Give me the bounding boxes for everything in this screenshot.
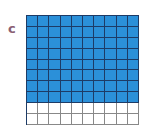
filled-cell	[94, 81, 105, 92]
empty-cell	[49, 114, 60, 125]
filled-cell	[83, 81, 94, 92]
filled-cell	[38, 92, 49, 103]
filled-cell	[128, 16, 139, 27]
filled-cell	[83, 16, 94, 27]
empty-cell	[61, 114, 72, 125]
filled-cell	[27, 16, 38, 27]
filled-cell	[61, 70, 72, 81]
filled-cell	[72, 49, 83, 60]
filled-cell	[38, 81, 49, 92]
filled-cell	[83, 92, 94, 103]
empty-cell	[27, 114, 38, 125]
empty-cell	[38, 103, 49, 114]
filled-cell	[27, 49, 38, 60]
filled-cell	[49, 81, 60, 92]
filled-cell	[72, 16, 83, 27]
filled-cell	[128, 27, 139, 38]
filled-cell	[83, 27, 94, 38]
filled-cell	[61, 60, 72, 71]
filled-cell	[49, 49, 60, 60]
filled-cell	[128, 92, 139, 103]
filled-cell	[83, 38, 94, 49]
filled-cell	[49, 92, 60, 103]
filled-cell	[117, 70, 128, 81]
filled-cell	[38, 60, 49, 71]
filled-cell	[38, 27, 49, 38]
filled-cell	[72, 60, 83, 71]
filled-cell	[94, 16, 105, 27]
filled-cell	[72, 70, 83, 81]
filled-cell	[27, 92, 38, 103]
hundred-grid	[26, 15, 139, 125]
empty-cell	[94, 103, 105, 114]
filled-cell	[27, 70, 38, 81]
filled-cell	[105, 70, 116, 81]
empty-cell	[117, 114, 128, 125]
filled-cell	[117, 38, 128, 49]
empty-cell	[94, 114, 105, 125]
filled-cell	[117, 16, 128, 27]
filled-cell	[105, 49, 116, 60]
filled-cell	[105, 92, 116, 103]
filled-cell	[72, 27, 83, 38]
empty-cell	[49, 103, 60, 114]
filled-cell	[72, 38, 83, 49]
filled-cell	[128, 70, 139, 81]
filled-cell	[49, 70, 60, 81]
empty-cell	[83, 103, 94, 114]
filled-cell	[61, 27, 72, 38]
filled-cell	[117, 92, 128, 103]
empty-cell	[105, 114, 116, 125]
filled-cell	[83, 49, 94, 60]
filled-cell	[72, 81, 83, 92]
filled-cell	[128, 38, 139, 49]
filled-cell	[83, 60, 94, 71]
filled-cell	[49, 60, 60, 71]
filled-cell	[49, 27, 60, 38]
filled-cell	[61, 38, 72, 49]
filled-cell	[61, 49, 72, 60]
filled-cell	[38, 38, 49, 49]
empty-cell	[105, 103, 116, 114]
filled-cell	[94, 92, 105, 103]
filled-cell	[49, 16, 60, 27]
empty-cell	[38, 114, 49, 125]
filled-cell	[49, 38, 60, 49]
filled-cell	[61, 92, 72, 103]
filled-cell	[94, 60, 105, 71]
filled-cell	[38, 49, 49, 60]
filled-cell	[94, 49, 105, 60]
filled-cell	[38, 70, 49, 81]
empty-cell	[117, 103, 128, 114]
empty-cell	[128, 103, 139, 114]
filled-cell	[105, 60, 116, 71]
filled-cell	[128, 81, 139, 92]
filled-cell	[117, 27, 128, 38]
filled-cell	[38, 16, 49, 27]
filled-cell	[128, 60, 139, 71]
filled-cell	[117, 81, 128, 92]
filled-cell	[117, 60, 128, 71]
filled-cell	[105, 38, 116, 49]
filled-cell	[117, 49, 128, 60]
empty-cell	[83, 114, 94, 125]
filled-cell	[105, 81, 116, 92]
empty-cell	[61, 103, 72, 114]
filled-cell	[94, 38, 105, 49]
filled-cell	[27, 81, 38, 92]
filled-cell	[94, 70, 105, 81]
empty-cell	[72, 114, 83, 125]
filled-cell	[72, 92, 83, 103]
empty-cell	[72, 103, 83, 114]
filled-cell	[83, 70, 94, 81]
filled-cell	[27, 60, 38, 71]
filled-cell	[128, 49, 139, 60]
filled-cell	[105, 27, 116, 38]
filled-cell	[61, 16, 72, 27]
empty-cell	[27, 103, 38, 114]
filled-cell	[94, 27, 105, 38]
filled-cell	[105, 16, 116, 27]
part-label: c	[8, 22, 16, 35]
filled-cell	[61, 81, 72, 92]
filled-cell	[27, 27, 38, 38]
